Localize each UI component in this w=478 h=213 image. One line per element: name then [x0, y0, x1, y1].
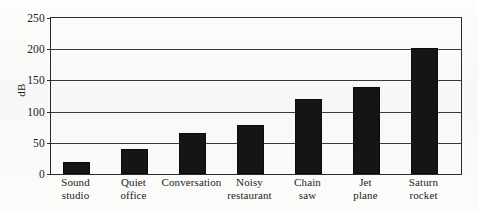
- y-tick-mark: [47, 49, 51, 50]
- y-tick-mark: [47, 112, 51, 113]
- bar: [295, 99, 322, 174]
- bar-chart-figure: dB 050100150200250 SoundstudioQuietoffic…: [0, 0, 478, 213]
- x-axis-label-line1: Sound: [61, 176, 90, 188]
- gridline: [51, 112, 461, 113]
- gridline: [51, 49, 461, 50]
- x-axis-label-line1: Quiet: [121, 176, 146, 188]
- y-tick-label: 250: [27, 12, 45, 24]
- bar: [353, 87, 380, 174]
- bar: [237, 125, 264, 174]
- y-tick-label: 100: [27, 106, 45, 118]
- bar: [121, 149, 148, 174]
- x-axis-label-line1: Saturn: [409, 176, 438, 188]
- y-tick-mark: [47, 18, 51, 19]
- x-axis-label-line1: Jet: [359, 176, 372, 188]
- y-tick-mark: [47, 80, 51, 81]
- y-tick-mark: [47, 174, 51, 175]
- gridline: [51, 80, 461, 81]
- y-tick-label: 50: [33, 137, 45, 149]
- y-tick-label: 150: [27, 74, 45, 86]
- x-axis-label-line2: rocket: [381, 189, 467, 202]
- bar: [179, 133, 206, 174]
- y-tick-mark: [47, 143, 51, 144]
- y-axis-label: dB: [15, 79, 27, 101]
- x-axis-label: Saturnrocket: [381, 176, 467, 202]
- plot-area: 050100150200250: [50, 17, 462, 175]
- y-tick-label: 200: [27, 43, 45, 55]
- bar: [63, 162, 90, 174]
- x-axis-label-line1: Chain: [294, 176, 321, 188]
- bar: [411, 48, 438, 174]
- x-axis-label-line2: office: [91, 189, 177, 202]
- x-axis-label-line1: Noisy: [236, 176, 263, 188]
